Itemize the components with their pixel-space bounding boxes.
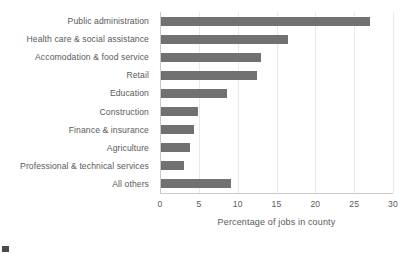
bar [160, 143, 190, 152]
category-label: All others [0, 175, 155, 193]
category-axis-labels: Public administration Health care & soci… [0, 12, 155, 193]
bar-row [160, 66, 393, 84]
category-label: Public administration [0, 12, 155, 30]
bar [160, 17, 370, 26]
bar-series [160, 12, 393, 193]
bar [160, 89, 227, 98]
x-axis-tick-labels: 051015202530 [160, 198, 393, 211]
category-label: Education [0, 84, 155, 102]
bar-chart-figure: Public administration Health care & soci… [0, 0, 416, 253]
category-label: Construction [0, 102, 155, 120]
category-label: Agriculture [0, 139, 155, 157]
x-tick-label: 5 [196, 198, 201, 210]
bar [160, 179, 231, 188]
bar [160, 53, 261, 62]
bar-row [160, 30, 393, 48]
bar-row [160, 102, 393, 120]
gridline [393, 12, 394, 193]
x-tick-label: 20 [310, 198, 320, 210]
x-tick-label: 15 [272, 198, 282, 210]
bar [160, 125, 194, 134]
x-tick-label: 10 [233, 198, 243, 210]
bar-row [160, 84, 393, 102]
y-axis-line [160, 12, 161, 193]
bar [160, 35, 288, 44]
plot-area [160, 12, 393, 193]
bar [160, 161, 184, 170]
bar-row [160, 12, 393, 30]
category-label: Retail [0, 66, 155, 84]
bar-row [160, 157, 393, 175]
category-label: Accomodation & food service [0, 48, 155, 66]
bar-row [160, 121, 393, 139]
bar-row [160, 175, 393, 193]
category-label: Finance & insurance [0, 121, 155, 139]
x-tick-label: 0 [158, 198, 163, 210]
x-axis-line [160, 193, 393, 194]
category-label: Health care & social assistance [0, 30, 155, 48]
category-label: Professional & technical services [0, 157, 155, 175]
bar-row [160, 139, 393, 157]
bar-row [160, 48, 393, 66]
bar [160, 71, 257, 80]
x-tick-label: 30 [388, 198, 398, 210]
scan-artifact [2, 246, 9, 252]
x-tick-label: 25 [349, 198, 359, 210]
x-axis-title: Percentage of jobs in county [160, 216, 393, 228]
bar [160, 107, 198, 116]
